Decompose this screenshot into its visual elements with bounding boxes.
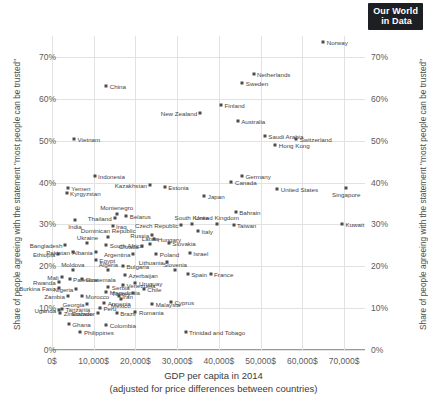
data-point[interactable]: [140, 245, 143, 248]
data-point[interactable]: [149, 183, 152, 186]
data-point[interactable]: [184, 330, 187, 333]
data-point[interactable]: [188, 251, 191, 254]
data-point[interactable]: [180, 224, 183, 227]
data-point-label: Romania: [139, 309, 164, 316]
data-point-label: Burkina Faso: [19, 285, 55, 292]
data-point[interactable]: [81, 277, 84, 280]
data-point-label: Czech Republic: [135, 222, 178, 229]
data-point[interactable]: [151, 302, 154, 305]
data-point[interactable]: [236, 119, 239, 122]
data-point[interactable]: [232, 224, 235, 227]
y-tick-label-right: 70%: [371, 52, 388, 62]
data-point[interactable]: [199, 112, 202, 115]
data-point[interactable]: [220, 104, 223, 107]
data-point[interactable]: [134, 311, 137, 314]
data-point[interactable]: [73, 219, 76, 222]
data-point[interactable]: [132, 252, 135, 255]
data-point[interactable]: [94, 258, 97, 261]
data-point[interactable]: [295, 137, 298, 140]
data-point-label: Azerbaijan: [129, 272, 158, 279]
data-point[interactable]: [96, 312, 99, 315]
y-tick-label-right: 50%: [371, 136, 388, 146]
data-point[interactable]: [252, 72, 255, 75]
data-point[interactable]: [345, 186, 348, 189]
data-point-label: Croatia: [119, 243, 139, 250]
y-axis-title-right: Share of people agreeing with the statem…: [418, 59, 428, 330]
x-tick-label: 70,000$: [329, 356, 360, 366]
gridline-vertical: [302, 36, 303, 350]
data-point-label: Ukraine: [77, 234, 98, 241]
y-tick-label-left: 70%: [39, 52, 56, 62]
data-point[interactable]: [68, 277, 71, 280]
data-point-label: Iran: [122, 292, 133, 299]
y-tick-label-left: 10%: [39, 303, 56, 313]
data-point[interactable]: [105, 244, 108, 247]
data-point[interactable]: [124, 274, 127, 277]
data-point[interactable]: [167, 242, 170, 245]
data-point[interactable]: [86, 242, 89, 245]
data-point-label: United States: [281, 185, 318, 192]
data-point[interactable]: [163, 185, 166, 188]
data-point[interactable]: [115, 312, 118, 315]
logo-line-2: in Data: [373, 16, 418, 26]
data-point[interactable]: [276, 187, 279, 190]
data-point[interactable]: [67, 322, 70, 325]
gridline-horizontal: [52, 57, 365, 58]
data-point-label: Kyrgyzstan: [70, 190, 101, 197]
data-point[interactable]: [65, 192, 68, 195]
data-point[interactable]: [66, 294, 69, 297]
data-point[interactable]: [190, 222, 193, 225]
data-point[interactable]: [60, 275, 63, 278]
data-point[interactable]: [98, 307, 101, 310]
data-point[interactable]: [322, 41, 325, 44]
data-point-label: Australia: [241, 117, 265, 124]
data-point[interactable]: [64, 244, 67, 247]
data-point[interactable]: [79, 330, 82, 333]
data-point[interactable]: [105, 323, 108, 326]
data-point[interactable]: [115, 212, 118, 215]
data-point[interactable]: [121, 265, 124, 268]
data-point-label: Montenegro: [100, 204, 133, 211]
data-point[interactable]: [75, 288, 78, 291]
data-point-label: Moldova: [61, 261, 84, 268]
data-point[interactable]: [71, 269, 74, 272]
data-point[interactable]: [59, 312, 62, 315]
data-point[interactable]: [57, 281, 60, 284]
data-point[interactable]: [341, 223, 344, 226]
data-point[interactable]: [155, 252, 158, 255]
data-point[interactable]: [57, 252, 60, 255]
data-point-label: Hong Kong: [279, 141, 310, 148]
data-point[interactable]: [149, 243, 152, 246]
data-point-label: Finland: [225, 102, 245, 109]
data-point[interactable]: [263, 134, 266, 137]
data-point[interactable]: [174, 269, 177, 272]
x-axis-subtitle: (adjusted for price differences between …: [0, 383, 427, 394]
data-point[interactable]: [241, 81, 244, 84]
data-point[interactable]: [125, 215, 128, 218]
data-point[interactable]: [142, 288, 145, 291]
data-point[interactable]: [203, 194, 206, 197]
data-point-label: Indonesia: [98, 173, 125, 180]
data-point[interactable]: [107, 235, 110, 238]
data-point[interactable]: [169, 300, 172, 303]
data-point[interactable]: [234, 210, 237, 213]
data-point[interactable]: [113, 217, 116, 220]
data-point[interactable]: [81, 295, 84, 298]
our-world-in-data-logo[interactable]: Our World in Data: [368, 3, 423, 30]
data-point[interactable]: [66, 186, 69, 189]
data-point[interactable]: [57, 287, 60, 290]
data-point[interactable]: [117, 294, 120, 297]
data-point[interactable]: [105, 85, 108, 88]
data-point[interactable]: [230, 180, 233, 183]
gridline-horizontal: [52, 224, 365, 225]
data-point[interactable]: [73, 137, 76, 140]
data-point[interactable]: [274, 143, 277, 146]
data-point[interactable]: [107, 269, 110, 272]
data-point[interactable]: [94, 250, 97, 253]
data-point[interactable]: [93, 175, 96, 178]
data-point[interactable]: [197, 229, 200, 232]
data-point[interactable]: [215, 222, 218, 225]
data-point[interactable]: [209, 272, 212, 275]
data-point[interactable]: [186, 272, 189, 275]
